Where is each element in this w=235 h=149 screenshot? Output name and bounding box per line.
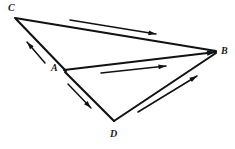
arrow-A-to-B	[101, 64, 166, 73]
segment-AD	[65, 72, 114, 121]
segments-group	[15, 18, 216, 121]
vertex-label-c: C	[8, 3, 15, 13]
vertex-label-a: A	[51, 63, 58, 73]
vertex-label-b: B	[221, 46, 228, 56]
arrow-D-to-B	[138, 76, 197, 112]
vector-diagram-canvas	[0, 0, 235, 149]
vertex-label-d: D	[110, 129, 117, 139]
vector-diagram-figure: C B A D	[0, 0, 235, 149]
arrow-C-to-B	[70, 20, 156, 35]
segment-CB	[15, 18, 216, 51]
segment-CA	[16, 19, 66, 71]
